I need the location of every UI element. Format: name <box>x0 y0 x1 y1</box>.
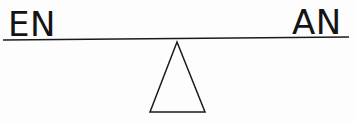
balance-scale-drawing: EN AN <box>0 0 355 122</box>
diagram-canvas: EN AN <box>0 0 355 122</box>
triangle-fulcrum-icon <box>150 42 205 112</box>
left-weight-label: EN <box>8 4 56 44</box>
right-weight-label: AN <box>292 2 342 42</box>
